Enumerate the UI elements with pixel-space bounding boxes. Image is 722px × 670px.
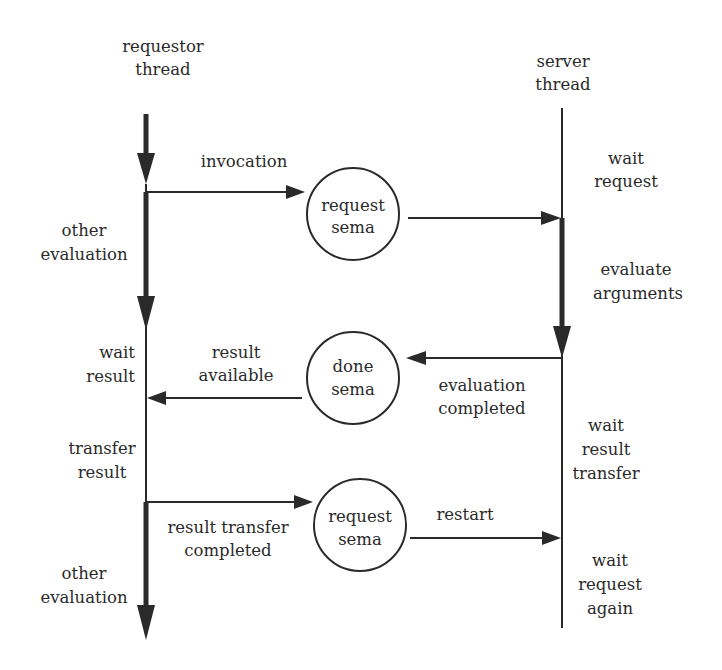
state-label: wait: [592, 551, 628, 570]
semaphore-label: sema: [331, 218, 375, 237]
state-label: evaluate: [600, 260, 671, 279]
result-available-arrow: result available: [147, 343, 302, 405]
semaphore-label: request: [328, 507, 392, 526]
arrow-down-icon: [137, 153, 155, 184]
result-transfer-completed-arrow: result transfer completed: [146, 495, 313, 560]
requestor-title-line2: thread: [135, 60, 191, 79]
result-transfer-completed-label: completed: [184, 541, 272, 560]
state-label: result: [582, 440, 631, 459]
state-label: other: [62, 221, 107, 240]
requestor-state-other-evaluation: other evaluation: [40, 221, 128, 264]
state-label: result: [78, 463, 127, 482]
request-to-server-arrow: [408, 211, 561, 225]
semaphore-label: done: [333, 357, 374, 376]
thread-semaphore-diagram: requestor thread server thread request s…: [0, 0, 722, 670]
invocation-label: invocation: [201, 152, 288, 171]
server-state-wait-result-transfer: wait result transfer: [572, 416, 639, 483]
arrow-right-icon: [294, 495, 313, 509]
server-title-line2: thread: [535, 75, 591, 94]
state-label: result: [86, 367, 135, 386]
server-title-line1: server: [536, 52, 589, 71]
restart-arrow: restart: [410, 505, 561, 545]
state-label: transfer: [68, 439, 135, 458]
state-label: evaluation: [40, 245, 128, 264]
result-available-label: available: [199, 366, 274, 385]
requestor-state-transfer-result: transfer result: [68, 439, 135, 482]
server-state-wait-request-again: wait request again: [578, 551, 642, 618]
server-timeline: [553, 108, 571, 628]
state-label: wait: [99, 343, 135, 362]
requestor-state-other-evaluation-2: other evaluation: [40, 564, 128, 607]
evaluation-completed-label: evaluation: [438, 376, 526, 395]
request-semaphore-1: request sema: [307, 168, 399, 260]
requestor-state-wait-result: wait result: [86, 343, 135, 386]
server-state-evaluate-arguments: evaluate arguments: [593, 260, 683, 303]
state-label: arguments: [593, 284, 683, 303]
requestor-title-line1: requestor: [122, 37, 204, 56]
semaphore-label: sema: [338, 530, 382, 549]
done-semaphore: done sema: [307, 332, 399, 424]
arrow-left-icon: [406, 351, 426, 365]
state-label: wait: [608, 149, 644, 168]
result-transfer-completed-label: result transfer: [167, 518, 288, 537]
server-thread-title: server thread: [535, 52, 591, 94]
evaluation-completed-arrow: evaluation completed: [406, 351, 562, 418]
state-label: evaluation: [40, 588, 128, 607]
arrow-down-icon: [137, 605, 155, 640]
result-available-label: result: [212, 343, 261, 362]
state-label: wait: [588, 416, 624, 435]
state-label: transfer: [572, 464, 639, 483]
arrow-right-icon: [542, 531, 561, 545]
arrow-right-icon: [286, 185, 305, 199]
state-label: request: [578, 575, 642, 594]
invocation-arrow: invocation: [146, 152, 305, 199]
request-semaphore-2: request sema: [314, 479, 406, 571]
restart-label: restart: [436, 505, 493, 524]
requestor-thread-title: requestor thread: [122, 37, 204, 79]
server-state-wait-request: wait request: [594, 149, 658, 191]
state-label: other: [62, 564, 107, 583]
evaluation-completed-label: completed: [438, 399, 526, 418]
semaphore-label: request: [321, 196, 385, 215]
semaphore-label: sema: [331, 380, 375, 399]
arrow-right-icon: [541, 211, 561, 225]
state-label: request: [594, 172, 658, 191]
arrow-down-icon: [553, 326, 571, 358]
state-label: again: [587, 599, 634, 618]
arrow-left-icon: [147, 391, 166, 405]
